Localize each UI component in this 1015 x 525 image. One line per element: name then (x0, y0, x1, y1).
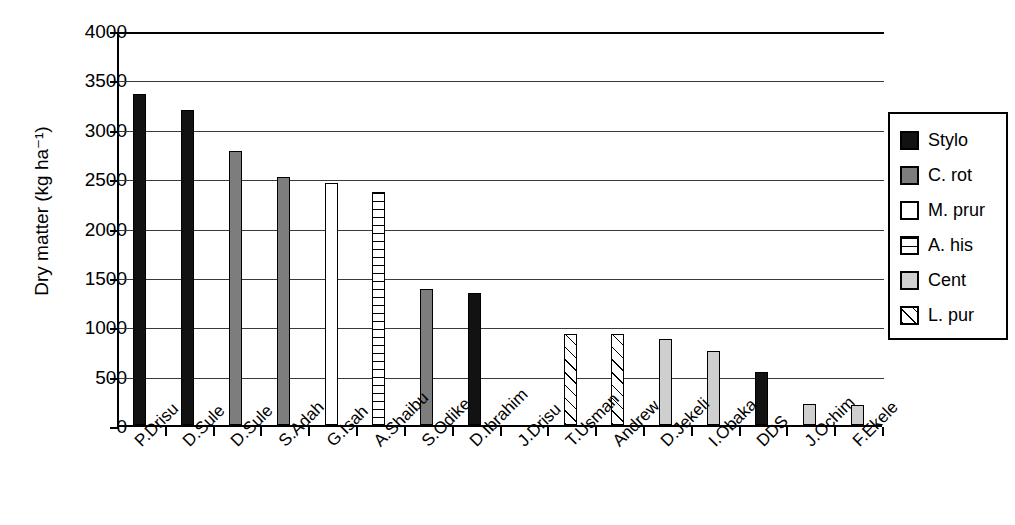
plot-area (117, 32, 882, 427)
bar (277, 177, 290, 425)
legend-item[interactable]: C. rot (900, 158, 1006, 193)
bar (325, 183, 338, 425)
gridline (119, 131, 884, 132)
y-axis-title: Dry matter (kg ha⁻¹) (29, 81, 55, 341)
legend-label: M. prur (928, 200, 985, 221)
gridline (119, 81, 884, 82)
legend-swatch-icon (900, 271, 919, 290)
bar (229, 151, 242, 425)
legend-swatch-icon (900, 306, 919, 325)
legend-swatch-icon (900, 131, 919, 150)
bar (707, 351, 720, 425)
legend-label: Stylo (928, 130, 968, 151)
bar (372, 192, 385, 425)
legend-label: Cent (928, 270, 966, 291)
legend-item[interactable]: L. pur (900, 298, 1006, 333)
bar (181, 110, 194, 425)
y-axis-tick-mark (110, 427, 119, 429)
legend-label: C. rot (928, 165, 972, 186)
bar (133, 94, 146, 425)
chart-legend: StyloC. rotM. prurA. hisCentL. pur (888, 112, 1008, 340)
legend-item[interactable]: A. his (900, 228, 1006, 263)
bar-chart-figure: Dry matter (kg ha⁻¹) 4000350030002500200… (0, 0, 1015, 525)
legend-swatch-icon (900, 236, 919, 255)
bar (755, 372, 768, 425)
gridline (119, 32, 884, 34)
legend-item[interactable]: Cent (900, 263, 1006, 298)
legend-item[interactable]: M. prur (900, 193, 1006, 228)
legend-label: L. pur (928, 305, 974, 326)
legend-swatch-icon (900, 201, 919, 220)
legend-label: A. his (928, 235, 973, 256)
bar (564, 334, 577, 425)
legend-item[interactable]: Stylo (900, 123, 1006, 158)
bar (803, 404, 816, 425)
legend-swatch-icon (900, 166, 919, 185)
